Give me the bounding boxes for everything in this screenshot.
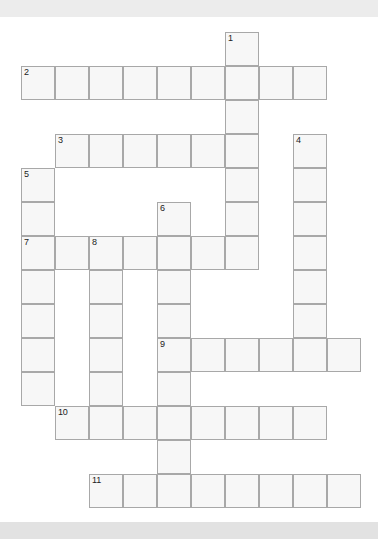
crossword-cell[interactable] [21,372,55,406]
cell-number: 5 [24,169,29,180]
crossword-cell[interactable] [259,406,293,440]
crossword-cell[interactable] [21,304,55,338]
crossword-cell[interactable] [293,236,327,270]
crossword-cell[interactable] [293,202,327,236]
crossword-cell[interactable] [191,236,225,270]
crossword-cell-numbered-2[interactable]: 2 [21,66,55,100]
crossword-cell-numbered-6[interactable]: 6 [157,202,191,236]
crossword-cell[interactable] [225,168,259,202]
crossword-cell[interactable] [55,66,89,100]
crossword-cell[interactable] [259,66,293,100]
crossword-cell[interactable] [327,474,361,508]
cell-number: 2 [24,67,29,78]
crossword-cell-numbered-9[interactable]: 9 [157,338,191,372]
crossword-cell[interactable] [293,66,327,100]
cell-number: 10 [58,407,68,418]
crossword-cell-numbered-4[interactable]: 4 [293,134,327,168]
crossword-cell[interactable] [293,474,327,508]
crossword-cell[interactable] [89,304,123,338]
crossword-puzzle-area: 1234567891011 [0,17,378,522]
crossword-cell-numbered-8[interactable]: 8 [89,236,123,270]
crossword-cell[interactable] [293,270,327,304]
crossword-cell[interactable] [327,338,361,372]
crossword-cell[interactable] [89,134,123,168]
crossword-cell[interactable] [55,236,89,270]
cell-number: 8 [92,237,97,248]
crossword-cell[interactable] [157,134,191,168]
crossword-cell[interactable] [89,338,123,372]
crossword-cell[interactable] [191,338,225,372]
crossword-cell[interactable] [293,304,327,338]
cell-number: 11 [92,475,101,486]
crossword-cell[interactable] [225,66,259,100]
crossword-cell[interactable] [157,66,191,100]
cell-number: 3 [58,135,63,146]
crossword-cell[interactable] [225,100,259,134]
crossword-cell[interactable] [157,474,191,508]
crossword-cell[interactable] [191,474,225,508]
crossword-cell[interactable] [191,406,225,440]
crossword-cell[interactable] [123,236,157,270]
crossword-cell[interactable] [293,338,327,372]
crossword-cell[interactable] [225,236,259,270]
crossword-cell[interactable] [123,406,157,440]
crossword-cell[interactable] [259,474,293,508]
crossword-cell[interactable] [225,474,259,508]
crossword-cell[interactable] [89,66,123,100]
crossword-cell[interactable] [225,338,259,372]
crossword-cell[interactable] [225,406,259,440]
crossword-cell-numbered-7[interactable]: 7 [21,236,55,270]
crossword-cell[interactable] [293,406,327,440]
crossword-cell[interactable] [157,440,191,474]
crossword-cell[interactable] [293,168,327,202]
crossword-cell-numbered-1[interactable]: 1 [225,32,259,66]
cell-number: 9 [160,339,165,350]
cell-number: 1 [228,33,233,44]
top-banner [0,0,378,17]
crossword-cell[interactable] [157,236,191,270]
crossword-cell-numbered-5[interactable]: 5 [21,168,55,202]
crossword-cell[interactable] [157,304,191,338]
crossword-cell[interactable] [191,66,225,100]
crossword-cell-numbered-3[interactable]: 3 [55,134,89,168]
crossword-cell[interactable] [225,202,259,236]
crossword-cell[interactable] [123,134,157,168]
crossword-cell[interactable] [89,372,123,406]
crossword-cell[interactable] [21,270,55,304]
crossword-cell[interactable] [123,474,157,508]
cell-number: 7 [24,237,29,248]
crossword-cell[interactable] [157,270,191,304]
cell-number: 4 [296,135,301,146]
crossword-grid[interactable]: 1234567891011 [0,17,378,522]
crossword-cell[interactable] [225,134,259,168]
crossword-cell[interactable] [21,202,55,236]
bottom-banner [0,522,378,539]
crossword-cell[interactable] [259,338,293,372]
crossword-cell[interactable] [123,66,157,100]
crossword-cell[interactable] [157,406,191,440]
crossword-cell[interactable] [157,372,191,406]
cell-number: 6 [160,203,165,214]
crossword-cell[interactable] [89,406,123,440]
crossword-cell[interactable] [89,270,123,304]
crossword-cell-numbered-10[interactable]: 10 [55,406,89,440]
crossword-cell[interactable] [21,338,55,372]
crossword-cell[interactable] [191,134,225,168]
crossword-cell-numbered-11[interactable]: 11 [89,474,123,508]
